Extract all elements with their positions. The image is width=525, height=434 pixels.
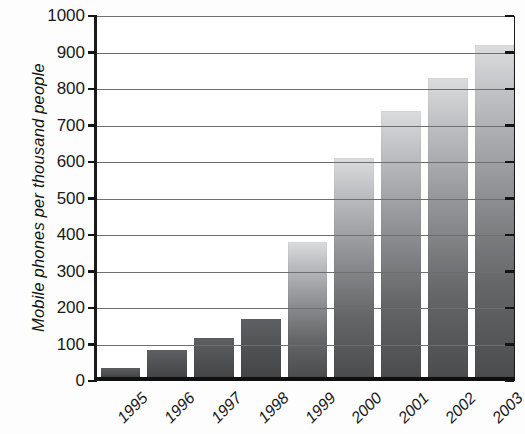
gridline bbox=[97, 308, 514, 309]
y-axis-tick-mark bbox=[88, 124, 97, 126]
y-axis-tick-label: 600 bbox=[57, 152, 85, 172]
bar bbox=[475, 45, 515, 377]
y-axis-tick-label: 700 bbox=[57, 116, 85, 136]
y-axis-tick-mark bbox=[88, 15, 97, 17]
plot-area: 01002003004005006007008009001000 bbox=[94, 16, 515, 381]
y-axis-tick-mark bbox=[88, 88, 97, 90]
y-axis-tick-label: 1000 bbox=[47, 6, 85, 26]
y-axis-tick-mark-right bbox=[505, 270, 514, 272]
y-axis-tick-mark bbox=[88, 197, 97, 199]
y-axis-tick-mark-right bbox=[505, 307, 514, 309]
gridline bbox=[97, 235, 514, 236]
y-axis-tick-mark bbox=[88, 51, 97, 53]
y-axis-tick-mark bbox=[88, 270, 97, 272]
y-axis-tick-mark-right bbox=[505, 197, 514, 199]
bar bbox=[194, 338, 234, 377]
y-axis-tick-mark bbox=[88, 343, 97, 345]
y-axis-tick-mark-right bbox=[505, 124, 514, 126]
y-axis-tick-label: 100 bbox=[57, 335, 85, 355]
y-axis-tick-mark bbox=[88, 234, 97, 236]
y-axis-tick-mark-right bbox=[505, 161, 514, 163]
y-axis-tick-mark bbox=[88, 307, 97, 309]
y-axis-tick-label: 400 bbox=[57, 225, 85, 245]
y-axis-tick-label: 900 bbox=[57, 43, 85, 63]
bar bbox=[101, 368, 141, 377]
y-axis-tick-mark bbox=[88, 380, 97, 382]
y-axis-tick-mark-right bbox=[505, 88, 514, 90]
y-axis-tick-mark-right bbox=[505, 380, 514, 382]
bar-chart-figure: Mobile phones per thousand people 010020… bbox=[0, 0, 525, 434]
y-axis-tick-label: 800 bbox=[57, 79, 85, 99]
y-axis-tick-label: 300 bbox=[57, 262, 85, 282]
bar bbox=[428, 78, 468, 377]
gridline bbox=[97, 53, 514, 54]
y-axis-tick-label: 0 bbox=[76, 371, 85, 391]
y-axis-tick-mark bbox=[88, 161, 97, 163]
gridline bbox=[97, 162, 514, 163]
bar bbox=[288, 242, 328, 377]
gridline bbox=[97, 16, 514, 17]
gridline bbox=[97, 199, 514, 200]
bar bbox=[241, 319, 281, 377]
x-axis-tick-label: 1995 bbox=[33, 389, 152, 434]
y-axis-title: Mobile phones per thousand people bbox=[29, 18, 48, 378]
gridline bbox=[97, 89, 514, 90]
gridline bbox=[97, 126, 514, 127]
bar bbox=[381, 111, 421, 377]
y-axis-tick-mark-right bbox=[505, 234, 514, 236]
bar bbox=[147, 350, 187, 377]
gridline bbox=[97, 345, 514, 346]
y-axis-tick-mark-right bbox=[505, 51, 514, 53]
y-axis-tick-label: 500 bbox=[57, 189, 85, 209]
gridline bbox=[97, 272, 514, 273]
y-axis-tick-label: 200 bbox=[57, 298, 85, 318]
bars-layer bbox=[97, 16, 514, 377]
y-axis-tick-mark-right bbox=[505, 15, 514, 17]
y-axis-tick-mark-right bbox=[505, 343, 514, 345]
